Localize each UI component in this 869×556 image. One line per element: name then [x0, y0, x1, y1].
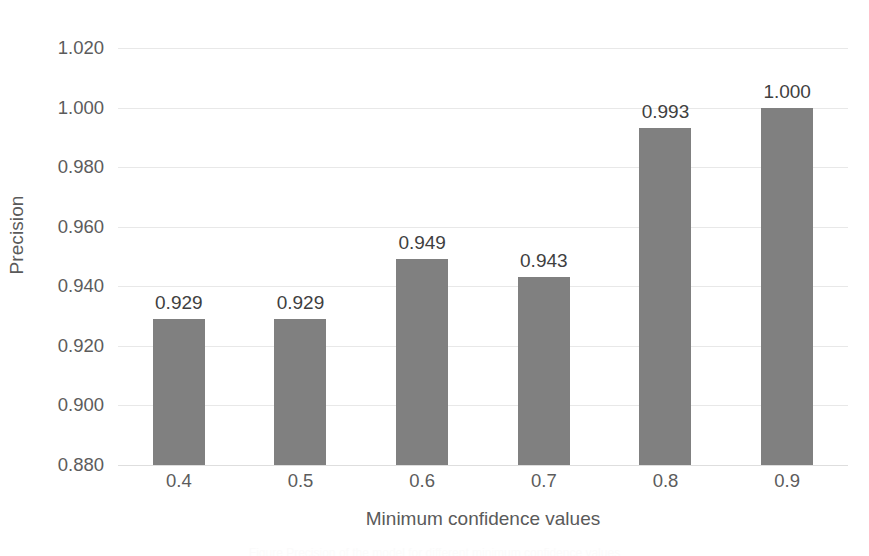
- bar-value-label: 1.000: [763, 81, 811, 103]
- x-axis-tick-label: 0.4: [166, 470, 192, 492]
- y-axis-tick-label: 1.000: [58, 97, 104, 119]
- y-axis-title: Precision: [0, 0, 34, 470]
- x-axis-tick-label: 0.5: [288, 470, 314, 492]
- x-axis-tick-label: 0.6: [409, 470, 435, 492]
- bar-group[interactable]: 0.929: [118, 48, 240, 465]
- y-axis-tick-label: 0.940: [58, 275, 104, 297]
- y-axis-tick-label: 0.880: [58, 454, 104, 476]
- x-axis-title: Minimum confidence values: [118, 508, 848, 530]
- bar[interactable]: [761, 108, 813, 465]
- bar-group[interactable]: 0.943: [483, 48, 605, 465]
- bar-group[interactable]: 1.000: [726, 48, 848, 465]
- bar-chart-figure: Precision 1.0201.0000.9800.9600.9400.920…: [0, 0, 869, 556]
- bar-value-label: 0.993: [642, 101, 690, 123]
- bar-group[interactable]: 0.929: [240, 48, 362, 465]
- bar-value-label: 0.949: [398, 232, 446, 254]
- bar-group[interactable]: 0.993: [605, 48, 727, 465]
- bar-group[interactable]: 0.949: [361, 48, 483, 465]
- x-axis-tick-label: 0.7: [531, 470, 557, 492]
- y-axis-tick-label: 1.020: [58, 37, 104, 59]
- y-axis-tick-label: 0.960: [58, 216, 104, 238]
- bar[interactable]: [518, 277, 570, 465]
- bar[interactable]: [153, 319, 205, 465]
- bar[interactable]: [639, 128, 691, 465]
- y-axis-tick-label: 0.920: [58, 335, 104, 357]
- clipped-caption: Figure Precision of the model for differ…: [0, 546, 869, 556]
- y-axis-tick-labels: 1.0201.0000.9800.9600.9400.9200.9000.880: [36, 48, 110, 465]
- bar[interactable]: [396, 259, 448, 465]
- bar-value-label: 0.943: [520, 250, 568, 272]
- y-axis-tick-label: 0.900: [58, 394, 104, 416]
- x-axis-tick-label: 0.8: [653, 470, 679, 492]
- y-axis-title-text: Precision: [6, 195, 28, 274]
- bar-value-label: 0.929: [277, 292, 325, 314]
- bars-layer: 0.9290.9290.9490.9430.9931.000: [118, 48, 848, 465]
- x-axis-tick-label: 0.9: [774, 470, 800, 492]
- gridline: [118, 465, 848, 466]
- y-axis-tick-label: 0.980: [58, 156, 104, 178]
- x-axis-tick-labels: 0.40.50.60.70.80.9: [118, 470, 848, 504]
- bar[interactable]: [274, 319, 326, 465]
- bar-value-label: 0.929: [155, 292, 203, 314]
